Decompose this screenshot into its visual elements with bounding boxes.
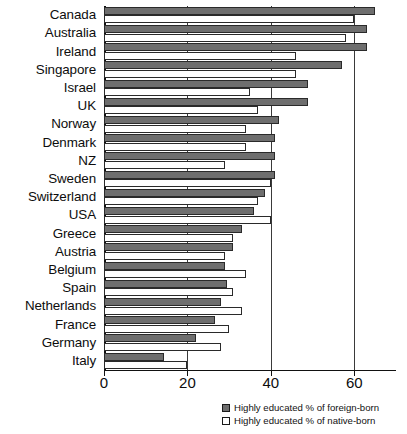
bar-group: [104, 261, 396, 279]
bar-group: [104, 206, 396, 224]
chart-figure: CanadaAustraliaIrelandSingaporeIsraelUKN…: [0, 0, 407, 434]
bar-group: [104, 315, 396, 333]
bar-group: [104, 115, 396, 133]
bar-native-born: [104, 34, 346, 42]
legend-label-native-born: Highly educated % of native-born: [234, 416, 375, 426]
bar-native-born: [104, 15, 354, 23]
tick-label: 20: [179, 375, 196, 390]
category-label: Denmark: [42, 136, 96, 149]
bar-native-born: [104, 179, 271, 187]
bar-native-born: [104, 234, 233, 242]
bar-native-born: [104, 307, 242, 315]
bar-group: [104, 97, 396, 115]
bar-group: [104, 279, 396, 297]
category-label: Australia: [45, 26, 96, 39]
category-label: Spain: [62, 281, 96, 294]
bar-native-born: [104, 197, 258, 205]
legend-item-foreign-born: Highly educated % of foreign-born: [222, 401, 407, 414]
bar-group: [104, 61, 396, 79]
bar-foreign-born: [104, 152, 275, 160]
category-label: USA: [69, 208, 96, 221]
bar-native-born: [104, 106, 258, 114]
bar-foreign-born: [104, 353, 164, 361]
category-label: Switzerland: [28, 190, 96, 203]
bar-group: [104, 334, 396, 352]
bar-group: [104, 297, 396, 315]
bar-foreign-born: [104, 334, 196, 342]
bar-group: [104, 243, 396, 261]
bar-native-born: [104, 70, 296, 78]
bar-foreign-born: [104, 243, 233, 251]
bar-foreign-born: [104, 316, 215, 324]
bar-native-born: [104, 143, 246, 151]
category-axis-labels: CanadaAustraliaIrelandSingaporeIsraelUKN…: [0, 6, 100, 370]
category-label: Belgium: [48, 263, 96, 276]
bar-foreign-born: [104, 80, 308, 88]
bar-foreign-born: [104, 171, 275, 179]
category-label: Norway: [51, 117, 96, 130]
legend-label-foreign-born: Highly educated % of foreign-born: [234, 403, 379, 413]
category-label: NZ: [78, 154, 96, 167]
bar-native-born: [104, 361, 187, 369]
bar-foreign-born: [104, 207, 254, 215]
category-label: Greece: [53, 227, 96, 240]
tick-label: 40: [263, 375, 280, 390]
bar-group: [104, 152, 396, 170]
bar-foreign-born: [104, 280, 227, 288]
bar-group: [104, 42, 396, 60]
category-label: France: [55, 318, 96, 331]
category-label: Ireland: [56, 45, 96, 58]
bar-native-born: [104, 288, 233, 296]
bar-foreign-born: [104, 116, 279, 124]
bar-native-born: [104, 125, 246, 133]
bar-foreign-born: [104, 134, 275, 142]
bar-foreign-born: [104, 43, 367, 51]
bar-foreign-born: [104, 7, 375, 15]
bar-native-born: [104, 252, 225, 260]
category-label: UK: [78, 99, 96, 112]
bar-native-born: [104, 88, 250, 96]
tick-label: 0: [100, 375, 108, 390]
plot-area: [104, 6, 396, 370]
bar-group: [104, 224, 396, 242]
bar-foreign-born: [104, 98, 308, 106]
category-label: Austria: [55, 245, 96, 258]
category-label: Sweden: [48, 172, 96, 185]
bar-foreign-born: [104, 298, 221, 306]
tick-label: 60: [346, 375, 363, 390]
bar-foreign-born: [104, 262, 225, 270]
bar-foreign-born: [104, 61, 342, 69]
legend-item-native-born: Highly educated % of native-born: [222, 414, 407, 427]
bar-native-born: [104, 343, 221, 351]
category-label: Canada: [50, 8, 96, 21]
bar-native-born: [104, 270, 246, 278]
category-label: Italy: [72, 354, 96, 367]
bar-group: [104, 188, 396, 206]
bar-group: [104, 352, 396, 370]
bar-native-born: [104, 216, 271, 224]
bar-native-born: [104, 161, 225, 169]
category-label: Germany: [42, 336, 96, 349]
legend-swatch-foreign-born-icon: [222, 404, 230, 412]
bar-group: [104, 133, 396, 151]
value-axis-ticks: 0204060: [104, 371, 396, 393]
category-label: Singapore: [36, 63, 96, 76]
legend-swatch-native-born-icon: [222, 417, 230, 425]
bar-foreign-born: [104, 225, 242, 233]
category-label: Israel: [64, 81, 96, 94]
bar-native-born: [104, 52, 296, 60]
bar-foreign-born: [104, 189, 265, 197]
bar-group: [104, 170, 396, 188]
category-label: Netherlands: [25, 299, 96, 312]
chart-legend: Highly educated % of foreign-born Highly…: [222, 401, 407, 427]
bar-native-born: [104, 325, 229, 333]
bar-group: [104, 6, 396, 24]
bar-foreign-born: [104, 25, 367, 33]
bar-group: [104, 24, 396, 42]
bar-group: [104, 79, 396, 97]
